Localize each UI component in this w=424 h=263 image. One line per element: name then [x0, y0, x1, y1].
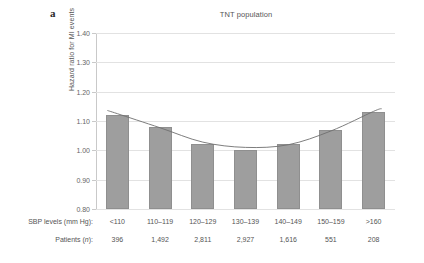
y-tick-label: 1.40: [50, 30, 90, 37]
y-tick-mark: [92, 33, 96, 34]
sbp-level-cell: >160: [344, 218, 404, 225]
y-tick-label: 0.90: [50, 176, 90, 183]
y-tick-label: 1.10: [50, 118, 90, 125]
patient-count-cell: 208: [344, 236, 404, 243]
sbp-row-header: SBP levels (mm Hg):: [0, 218, 93, 225]
y-tick-mark: [92, 121, 96, 122]
y-tick-label: 1.00: [50, 147, 90, 154]
bottom-label-table: SBP levels (mm Hg): Patients (n): <11011…: [0, 214, 424, 256]
gridline: [96, 92, 395, 93]
patients-row-header: Patients (n):: [0, 236, 93, 243]
y-tick-mark: [92, 209, 96, 210]
y-tick-label: 1.30: [50, 59, 90, 66]
bar: [277, 144, 300, 209]
plot-area: 1.401.301.201.101.000.900.80: [96, 33, 395, 209]
gridline: [96, 62, 395, 63]
gridline: [96, 121, 395, 122]
bar: [106, 115, 129, 209]
bar: [234, 150, 257, 209]
y-tick-mark: [92, 92, 96, 93]
gridline: [96, 209, 395, 210]
bar: [319, 130, 342, 209]
bar: [362, 112, 385, 209]
chart-title: TNT population: [96, 10, 396, 19]
bar: [191, 144, 214, 209]
gridline: [96, 33, 395, 34]
y-tick-mark: [92, 150, 96, 151]
y-tick-mark: [92, 62, 96, 63]
y-tick-mark: [92, 180, 96, 181]
y-tick-label: 0.80: [50, 206, 90, 213]
y-tick-label: 1.20: [50, 88, 90, 95]
panel-label: a: [50, 8, 56, 19]
bar: [149, 127, 172, 209]
figure-panel-a: a TNT population Hazard ratio for MI eve…: [0, 0, 424, 263]
